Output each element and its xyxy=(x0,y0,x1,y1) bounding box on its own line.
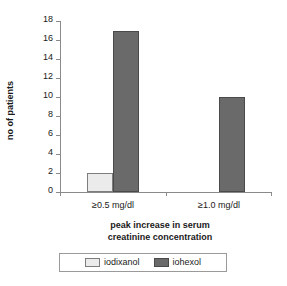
category-label: ≥1.0 mg/dl xyxy=(166,201,272,210)
x-axis-title: peak increase in serum creatinine concen… xyxy=(40,219,280,243)
x-axis-title-line-2: creatinine concentration xyxy=(40,231,280,243)
legend-label: iohexol xyxy=(173,258,202,267)
plot-area: 181614121086420 xyxy=(60,21,272,192)
bar-iohexol-0 xyxy=(113,31,139,193)
y-axis-tick-label: 10 xyxy=(43,91,53,100)
y-axis-tick-label: 12 xyxy=(43,72,53,81)
category-tick-mark xyxy=(271,192,272,196)
y-axis-tick-label: 4 xyxy=(48,148,53,157)
category-tick-mark xyxy=(166,192,167,196)
y-axis-title: no of patients xyxy=(2,56,18,166)
legend-label: iodixanol xyxy=(104,258,140,267)
bar-group xyxy=(166,21,272,192)
y-axis-tick-label: 14 xyxy=(43,53,53,62)
bar-chart-figure: no of patients 181614121086420 ≥0.5 mg/d… xyxy=(0,0,287,286)
y-axis-tick-label: 8 xyxy=(48,110,53,119)
y-axis-tick-label: 18 xyxy=(43,15,53,24)
y-axis-tick-label: 0 xyxy=(48,186,53,195)
bar-group xyxy=(60,21,166,192)
legend-entry-iodixanol: iodixanol xyxy=(85,258,140,267)
y-axis-tick-label: 16 xyxy=(43,34,53,43)
legend-swatch-icon xyxy=(154,258,169,267)
legend-swatch-icon xyxy=(85,258,100,267)
legend-entry-iohexol: iohexol xyxy=(154,258,202,267)
y-axis-tick-label: 2 xyxy=(48,167,53,176)
category-axis: ≥0.5 mg/dl≥1.0 mg/dl xyxy=(60,192,272,218)
bar-iodixanol-0 xyxy=(87,173,113,192)
y-axis-tick-label: 6 xyxy=(48,129,53,138)
category-label: ≥0.5 mg/dl xyxy=(60,201,166,210)
bar-iohexol-1 xyxy=(219,97,245,192)
chart-legend: iodixanoliohexol xyxy=(59,253,227,272)
x-axis-title-line-1: peak increase in serum xyxy=(40,219,280,231)
category-tick-mark xyxy=(60,192,61,196)
